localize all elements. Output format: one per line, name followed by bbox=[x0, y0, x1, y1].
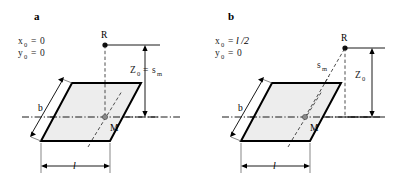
panel-b-width-ext-bottom bbox=[231, 137, 241, 141]
panel-b-label: b bbox=[228, 10, 234, 22]
panel-a-height-arrow-down bbox=[142, 111, 147, 117]
panel-b-x0-var: x bbox=[215, 36, 220, 46]
panel-a-y0-var: y bbox=[18, 48, 23, 58]
panel-a-width-ext-top bbox=[62, 79, 72, 83]
panel-b-y0-eq: = bbox=[228, 48, 233, 58]
panel-b-length-label: l bbox=[273, 160, 276, 171]
panel-a-width-arrow-bottom bbox=[30, 131, 36, 137]
panel-b-condition-x0: x 0 = l /2 bbox=[215, 35, 249, 48]
panel-b-point-m-dot bbox=[302, 114, 307, 119]
panel-a-sm-var: s bbox=[152, 65, 156, 75]
panel-b-y0-value: 0 bbox=[237, 48, 242, 58]
panel-a-length-arrow-left bbox=[41, 163, 47, 168]
panel-b-height-arrow-up bbox=[369, 48, 374, 54]
panel-b-sm-sub: m bbox=[322, 65, 327, 72]
panel-b: b x 0 = l /2 y 0 = 0 R bbox=[215, 10, 385, 173]
panel-b-height-arrow-down bbox=[369, 111, 374, 117]
panel-a-width-ext-bottom bbox=[31, 137, 41, 141]
panel-a-condition-x0: x 0 = 0 bbox=[18, 36, 45, 48]
panel-b-point-m-label: M bbox=[310, 123, 319, 133]
panel-b-width-arrow-bottom bbox=[230, 131, 236, 137]
panel-b-condition-y0: y 0 = 0 bbox=[215, 48, 242, 60]
panel-b-width-arrow-top bbox=[258, 77, 264, 83]
panel-a-y0-eq: = bbox=[31, 48, 36, 58]
panel-b-x0-eq: = bbox=[228, 36, 233, 46]
panel-a-y0-value: 0 bbox=[40, 48, 45, 58]
diagram-svg: a x 0 = 0 y 0 = 0 R M bbox=[0, 0, 402, 181]
panel-b-length-arrow-left bbox=[241, 163, 247, 168]
panel-b-height-label: Z 0 bbox=[355, 70, 365, 82]
panel-a-z0-sub: 0 bbox=[137, 70, 140, 77]
panel-a-width-arrow-top bbox=[58, 77, 64, 83]
panel-a-z0-var: Z bbox=[130, 65, 136, 75]
panel-a-length-arrow-right bbox=[104, 163, 110, 168]
panel-a-condition-y0: y 0 = 0 bbox=[18, 48, 45, 60]
figure-container: a x 0 = 0 y 0 = 0 R M bbox=[0, 0, 402, 181]
panel-b-slant-label: s m bbox=[317, 60, 327, 72]
panel-b-z0-sub: 0 bbox=[362, 75, 365, 82]
panel-b-x0-sub: 0 bbox=[221, 41, 224, 48]
panel-a-sm-sub: m bbox=[157, 70, 162, 77]
panel-b-width-label: b bbox=[238, 103, 243, 113]
panel-a: a x 0 = 0 y 0 = 0 R M bbox=[18, 10, 180, 173]
panel-b-width-ext-top bbox=[262, 79, 272, 83]
panel-a-width-label: b bbox=[38, 103, 43, 113]
panel-a-point-m-label: M bbox=[110, 123, 119, 133]
panel-a-length-label: l bbox=[73, 160, 76, 171]
panel-b-sm-var: s bbox=[317, 60, 321, 70]
panel-a-z0-eq: = bbox=[143, 65, 148, 75]
panel-a-x0-sub: 0 bbox=[24, 41, 27, 48]
panel-a-label: a bbox=[34, 10, 40, 22]
panel-a-height-label: Z 0 = s m bbox=[130, 65, 162, 77]
panel-b-point-r-label: R bbox=[341, 33, 348, 43]
panel-b-length-arrow-right bbox=[304, 163, 310, 168]
panel-a-height-arrow-up bbox=[142, 45, 147, 51]
panel-a-x0-var: x bbox=[18, 36, 23, 46]
panel-b-z0-var: Z bbox=[355, 70, 361, 80]
panel-a-y0-sub: 0 bbox=[24, 53, 27, 60]
panel-b-x0-value: l /2 bbox=[236, 35, 249, 46]
panel-a-x0-value: 0 bbox=[40, 36, 45, 46]
panel-a-x0-eq: = bbox=[31, 36, 36, 46]
panel-b-y0-sub: 0 bbox=[221, 53, 224, 60]
panel-a-point-m-dot bbox=[102, 114, 107, 119]
panel-a-point-r-label: R bbox=[101, 30, 108, 40]
panel-b-y0-var: y bbox=[215, 48, 220, 58]
